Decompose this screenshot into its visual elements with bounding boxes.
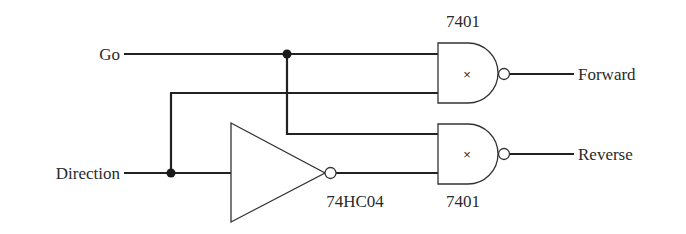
nand-gate-bottom: × 7401 xyxy=(438,124,510,211)
part-label-74hc04: 74HC04 xyxy=(326,192,384,211)
input-label-direction: Direction xyxy=(56,164,121,183)
output-label-reverse: Reverse xyxy=(578,145,633,164)
inverter-body xyxy=(231,123,325,222)
nand-gate-top-bubble xyxy=(499,69,510,80)
circuit-diagram: × 7401 × 7401 74HC04 Go Direction Forwar… xyxy=(0,0,686,234)
inverter-bubble xyxy=(325,168,336,179)
nand-gate-top: × 7401 xyxy=(438,12,510,103)
part-label-7401-top: 7401 xyxy=(446,12,480,31)
part-label-7401-bottom: 7401 xyxy=(446,192,480,211)
open-collector-mark-bottom: × xyxy=(463,147,471,162)
junction-go xyxy=(283,50,292,59)
junction-direction xyxy=(167,169,176,178)
circuit-svg: × 7401 × 7401 74HC04 Go Direction Forwar… xyxy=(0,0,686,234)
output-label-forward: Forward xyxy=(578,65,636,84)
open-collector-mark-top: × xyxy=(463,67,471,82)
nand-gate-bottom-bubble xyxy=(499,149,510,160)
input-label-go: Go xyxy=(99,45,120,64)
